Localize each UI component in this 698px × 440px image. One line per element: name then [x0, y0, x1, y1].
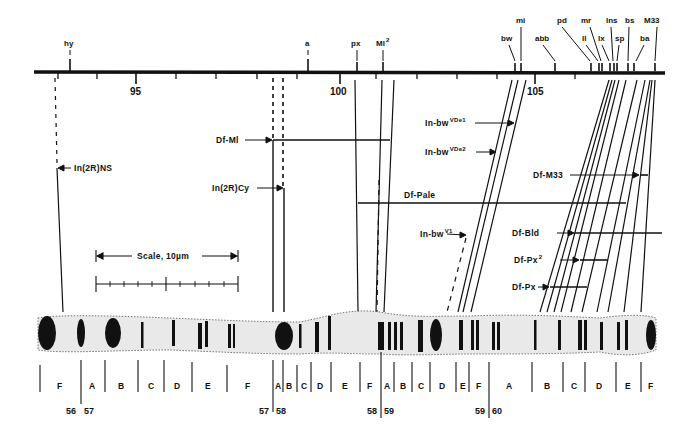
band-e-58: E	[342, 382, 348, 391]
label-in-bw-vde1-sup: VDe1	[450, 117, 466, 123]
band-d-60: D	[596, 382, 602, 391]
band-d-59: D	[439, 382, 445, 391]
label-df-px2-text: Df-Px	[514, 255, 538, 265]
label-df-m33: Df-M33	[533, 171, 563, 180]
band-c-59: C	[418, 382, 424, 391]
gene-label-mi: mi	[516, 17, 525, 25]
division-58b: 58	[367, 407, 377, 416]
band-e-60: E	[625, 382, 631, 391]
label-in-bw-vde1: In-bwVDe1	[425, 119, 466, 128]
division-57b: 57	[259, 407, 269, 416]
band-boundaries	[40, 352, 641, 418]
label-in-bw-vde2: In-bwVDe2	[425, 148, 466, 157]
band-f-60: F	[648, 382, 653, 391]
band-c-57: C	[148, 382, 154, 391]
band-f-59: F	[476, 382, 481, 391]
division-58a: 58	[276, 407, 286, 416]
band-a-58: A	[275, 382, 281, 391]
gene-label-hy: hy	[64, 40, 73, 48]
label-df-ml: Df-Ml	[216, 136, 239, 145]
gene-label-pd: pd	[557, 17, 567, 25]
label-in-bw-v1-sup: V1	[445, 228, 453, 234]
label-df-px: Df-Px	[512, 283, 536, 292]
genetic-map-axis	[34, 27, 665, 84]
gene-label-mr: mr	[581, 17, 591, 25]
label-in-bw-v1-text: In-bw	[420, 229, 444, 239]
band-a-60: A	[506, 382, 512, 391]
gene-label-lx: lx	[598, 35, 605, 43]
gene-label-a: a	[305, 40, 309, 48]
band-b-57: B	[118, 382, 124, 391]
division-60: 60	[492, 407, 502, 416]
label-df-bld: Df-Bld	[512, 229, 539, 238]
scale-bar-label: Scale, 10µm	[137, 252, 189, 261]
chromosome-map-diagram	[0, 0, 698, 440]
band-d-57: D	[174, 382, 180, 391]
band-b-58: B	[286, 382, 292, 391]
division-57a: 57	[84, 407, 94, 416]
rearrangement-arrows	[58, 120, 639, 290]
band-c-58: C	[301, 382, 307, 391]
band-c-60: C	[571, 382, 577, 391]
gene-label-lns: lns	[606, 17, 618, 25]
band-f-56: F	[57, 382, 62, 391]
label-df-px2-sup: 2	[539, 254, 543, 260]
gene-label-bs: bs	[625, 17, 634, 25]
band-e-59: E	[460, 382, 466, 391]
label-in2r-cy: In(2R)Cy	[212, 184, 249, 193]
gene-label-ml2-text: Ml	[376, 39, 385, 48]
label-in-bw-v1: In-bwV1	[420, 230, 453, 239]
band-a-57: A	[89, 382, 95, 391]
label-in-bw-vde2-sup: VDe2	[450, 146, 466, 152]
gene-label-ll: ll	[582, 35, 586, 43]
label-in2r-ns: In(2R)NS	[74, 164, 112, 173]
gene-label-abb: abb	[535, 35, 549, 43]
axis-tick-95: 95	[130, 87, 141, 97]
label-df-px2: Df-Px2	[514, 256, 542, 265]
gene-label-ml2-sup: 2	[386, 37, 389, 43]
label-in-bw-vde1-text: In-bw	[425, 118, 449, 128]
gene-label-px: px	[351, 40, 360, 48]
axis-tick-105: 105	[527, 87, 544, 97]
axis-tick-100: 100	[330, 87, 347, 97]
gene-label-ml2: Ml2	[376, 40, 389, 48]
rearrangement-lines	[55, 78, 662, 312]
label-in-bw-vde2-text: In-bw	[425, 147, 449, 157]
division-59b: 59	[475, 407, 485, 416]
band-a-59: A	[384, 382, 390, 391]
division-59a: 59	[384, 407, 394, 416]
band-b-59: B	[400, 382, 406, 391]
gene-label-sp: sp	[615, 35, 624, 43]
division-56: 56	[66, 407, 76, 416]
band-d-58: D	[317, 382, 323, 391]
band-e-57: E	[205, 382, 211, 391]
gene-label-bw: bw	[501, 35, 512, 43]
band-f-58: F	[367, 382, 372, 391]
label-df-pale: Df-Pale	[404, 191, 435, 200]
gene-label-ba: ba	[640, 35, 649, 43]
band-b-60: B	[544, 382, 550, 391]
gene-label-m33: M33	[644, 17, 660, 25]
polytene-chromosome	[38, 311, 656, 355]
band-f-57: F	[245, 382, 250, 391]
